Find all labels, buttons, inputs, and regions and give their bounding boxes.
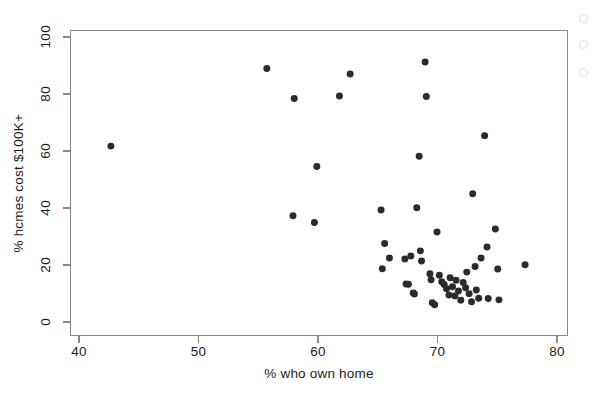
data-point bbox=[431, 301, 438, 308]
data-point bbox=[418, 258, 425, 265]
x-tick-mark bbox=[556, 336, 557, 343]
data-point bbox=[379, 265, 386, 272]
data-point bbox=[411, 290, 418, 297]
data-point bbox=[336, 93, 343, 100]
data-point bbox=[494, 266, 501, 273]
data-point bbox=[426, 270, 433, 277]
y-tick-mark bbox=[63, 36, 70, 37]
data-point bbox=[311, 219, 318, 226]
data-point bbox=[436, 272, 443, 279]
data-point bbox=[485, 295, 492, 302]
y-tick-label-wrap: 0 bbox=[31, 305, 59, 339]
page-edge-artifact bbox=[579, 14, 588, 23]
data-point bbox=[478, 254, 485, 261]
data-point bbox=[347, 70, 354, 77]
data-point bbox=[492, 226, 499, 233]
data-point bbox=[290, 212, 297, 219]
data-point bbox=[378, 207, 385, 214]
data-point bbox=[413, 204, 420, 211]
x-tick-label: 50 bbox=[179, 344, 219, 359]
x-tick-label: 60 bbox=[298, 344, 338, 359]
data-point bbox=[445, 292, 452, 299]
data-point bbox=[407, 252, 414, 259]
x-tick-mark bbox=[198, 336, 199, 343]
data-point bbox=[423, 93, 430, 100]
y-tick-label: 40 bbox=[38, 200, 53, 216]
x-tick-label: 70 bbox=[418, 344, 458, 359]
data-point bbox=[291, 95, 298, 102]
y-tick-mark bbox=[63, 93, 70, 94]
data-point bbox=[466, 290, 473, 297]
y-tick-label: 80 bbox=[38, 86, 53, 102]
scatter-plot-figure: % hcmes cost $100K+ 020406080100 4050607… bbox=[0, 0, 592, 403]
x-tick-mark bbox=[437, 336, 438, 343]
data-point bbox=[417, 247, 424, 254]
y-tick-label: 0 bbox=[38, 318, 53, 326]
x-tick-mark bbox=[78, 336, 79, 343]
y-tick-label: 20 bbox=[38, 257, 53, 273]
data-point bbox=[386, 254, 393, 261]
data-point bbox=[381, 240, 388, 247]
data-point bbox=[422, 59, 429, 66]
y-tick-mark bbox=[63, 264, 70, 265]
x-tick-mark bbox=[317, 336, 318, 343]
data-point bbox=[469, 190, 476, 197]
y-tick-label-wrap: 20 bbox=[31, 248, 59, 282]
data-point bbox=[416, 153, 423, 160]
data-point bbox=[107, 143, 114, 150]
data-point bbox=[455, 288, 462, 295]
data-point bbox=[449, 283, 456, 290]
data-point bbox=[447, 274, 454, 281]
y-tick-label: 100 bbox=[38, 25, 53, 48]
y-axis-label-text: % hcmes cost $100K+ bbox=[11, 114, 26, 253]
x-axis-label: % who own home bbox=[70, 366, 568, 381]
data-point bbox=[443, 285, 450, 292]
data-point bbox=[457, 297, 464, 304]
data-point bbox=[462, 284, 469, 291]
data-point bbox=[263, 65, 270, 72]
data-point bbox=[401, 256, 408, 263]
data-point bbox=[405, 281, 412, 288]
data-point bbox=[468, 298, 475, 305]
page-edge-artifact bbox=[579, 68, 588, 77]
data-point bbox=[472, 263, 479, 270]
y-tick-label-wrap: 80 bbox=[31, 77, 59, 111]
y-tick-label-wrap: 60 bbox=[31, 134, 59, 168]
plot-panel bbox=[70, 30, 568, 336]
data-point bbox=[475, 295, 482, 302]
data-point bbox=[428, 276, 435, 283]
data-point bbox=[495, 296, 502, 303]
data-point bbox=[434, 228, 441, 235]
y-tick-label: 60 bbox=[38, 143, 53, 159]
x-tick-label: 80 bbox=[537, 344, 577, 359]
y-axis-label: % hcmes cost $100K+ bbox=[6, 0, 30, 366]
data-point bbox=[313, 163, 320, 170]
data-point bbox=[484, 243, 491, 250]
y-tick-mark bbox=[63, 207, 70, 208]
data-point bbox=[463, 269, 470, 276]
x-tick-label: 40 bbox=[59, 344, 99, 359]
y-tick-label-wrap: 40 bbox=[31, 191, 59, 225]
data-point bbox=[522, 261, 529, 268]
y-tick-mark bbox=[63, 150, 70, 151]
data-point bbox=[453, 277, 460, 284]
y-tick-label-wrap: 100 bbox=[31, 20, 59, 54]
data-points-layer bbox=[71, 31, 567, 335]
y-tick-mark bbox=[63, 321, 70, 322]
data-point bbox=[473, 286, 480, 293]
page-edge-artifact bbox=[579, 40, 588, 49]
data-point bbox=[481, 132, 488, 139]
